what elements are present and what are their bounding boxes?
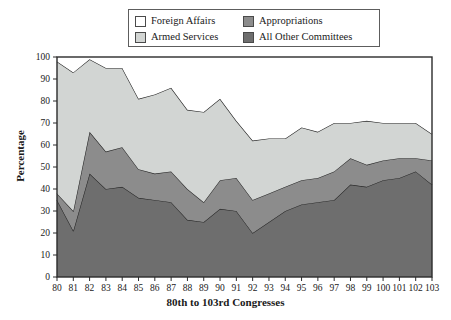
x-tick-label: 82	[85, 283, 95, 293]
x-tick-label: 88	[183, 283, 193, 293]
y-tick-label: 20	[41, 228, 51, 238]
x-tick-label: 101	[392, 283, 407, 293]
x-tick-label: 87	[166, 283, 176, 293]
x-tick-label: 80	[52, 283, 62, 293]
y-tick-label: 60	[41, 140, 51, 150]
x-tick-label: 92	[248, 283, 258, 293]
y-tick-label: 80	[41, 96, 51, 106]
y-axis-title: Percentage	[14, 130, 26, 182]
x-tick-label: 97	[329, 283, 339, 293]
area-series-layer	[57, 57, 432, 277]
x-tick-label: 89	[199, 283, 209, 293]
x-axis-title: 80th to 103rd Congresses	[0, 296, 451, 308]
x-tick-label: 98	[346, 283, 356, 293]
y-tick-label: 50	[41, 162, 51, 172]
x-tick-label: 91	[232, 283, 242, 293]
x-tick-label: 90	[215, 283, 225, 293]
chart-plot-area: 0102030405060708090100 80818283848586878…	[0, 0, 451, 320]
y-axis-ticks: 0102030405060708090100	[36, 52, 57, 282]
y-tick-label: 30	[41, 206, 51, 216]
y-tick-label: 90	[41, 74, 51, 84]
x-tick-label: 103	[425, 283, 440, 293]
x-tick-label: 96	[313, 283, 323, 293]
x-tick-label: 81	[69, 283, 79, 293]
y-tick-label: 100	[36, 52, 51, 62]
y-tick-label: 40	[41, 184, 51, 194]
x-tick-label: 84	[117, 283, 127, 293]
y-tick-label: 10	[41, 250, 51, 260]
x-tick-label: 95	[297, 283, 307, 293]
x-tick-label: 85	[134, 283, 144, 293]
x-tick-label: 94	[281, 283, 291, 293]
y-tick-label: 70	[41, 118, 51, 128]
x-tick-label: 86	[150, 283, 160, 293]
x-tick-label: 102	[409, 283, 424, 293]
x-axis-ticks: 8081828384858687888990919293949596979899…	[52, 277, 439, 293]
stacked-area-chart: 0102030405060708090100 80818283848586878…	[0, 0, 451, 320]
x-tick-label: 99	[362, 283, 372, 293]
y-tick-label: 0	[45, 272, 50, 282]
x-tick-label: 93	[264, 283, 274, 293]
x-tick-label: 100	[376, 283, 391, 293]
x-tick-label: 83	[101, 283, 111, 293]
chart-root: Foreign Affairs Appropriations Armed Ser…	[0, 0, 451, 320]
